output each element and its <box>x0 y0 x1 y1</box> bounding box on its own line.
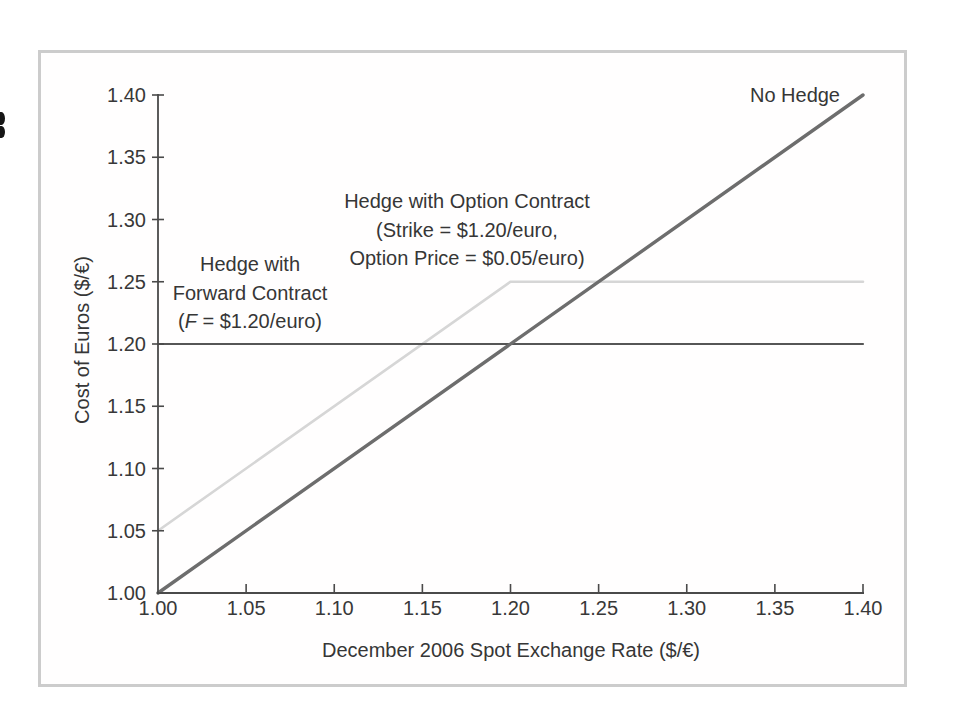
figure-frame <box>38 50 907 687</box>
forward-annotation-line2: Forward Contract <box>140 279 360 308</box>
y-axis-title: Cost of Euros ($/€) <box>71 190 97 490</box>
x-axis-title: December 2006 Spot Exchange Rate ($/€) <box>261 639 761 662</box>
option-hedge-annotation: Hedge with Option Contract (Strike = $1.… <box>317 187 617 273</box>
print-artifact-blob <box>0 126 5 138</box>
option-annotation-line3: Option Price = $0.05/euro) <box>317 244 617 273</box>
no-hedge-line-label: No Hedge <box>640 81 840 110</box>
option-annotation-line1: Hedge with Option Contract <box>317 187 617 216</box>
option-annotation-line2: (Strike = $1.20/euro, <box>317 216 617 245</box>
book-page: 1.001.051.101.151.201.251.301.351.401.00… <box>0 0 959 726</box>
print-artifact-blob <box>0 112 5 125</box>
forward-rate-symbol: F <box>185 310 197 332</box>
forward-annotation-line1: Hedge with <box>140 250 360 279</box>
forward-hedge-annotation: Hedge with Forward Contract (F = $1.20/e… <box>140 250 360 336</box>
forward-annotation-line3: (F = $1.20/euro) <box>140 307 360 336</box>
